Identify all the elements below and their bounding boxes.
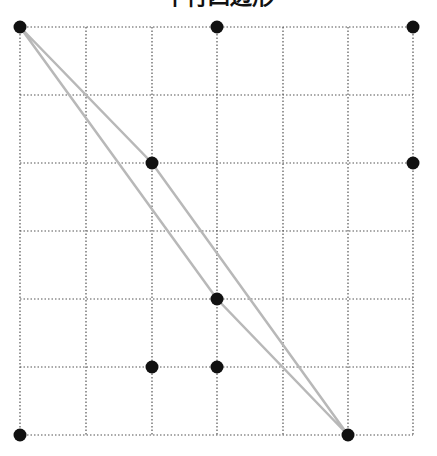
grid-dot — [146, 361, 159, 374]
grid-dot — [211, 361, 224, 374]
grid-dot — [211, 293, 224, 306]
grid-dot — [14, 21, 27, 34]
dot-grid-diagram — [0, 0, 437, 456]
grid-dot — [407, 157, 420, 170]
grid-dot — [14, 429, 27, 442]
grid-dot — [407, 21, 420, 34]
grid-dot — [211, 21, 224, 34]
grid-dot — [146, 157, 159, 170]
grid-dot — [342, 429, 355, 442]
